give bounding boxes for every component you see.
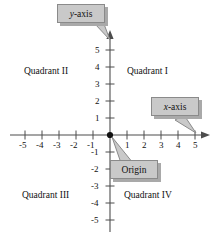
x-tick-label-1: 1: [125, 141, 130, 150]
quadrant-label-2: Quadrant II: [24, 67, 68, 77]
y-tick-label--5: -5: [91, 216, 99, 225]
coordinate-plane-figure: -5 -4 -3 -2 -1 1 2 3 4 5 5 4 3 2 1 -1 -2…: [0, 0, 216, 241]
y-tick-label-3: 3: [95, 80, 100, 89]
y-tick-label--4: -4: [91, 199, 99, 208]
quadrant-label-4: Quadrant IV: [124, 191, 172, 201]
y-axis-callout-rest: -axis: [74, 9, 92, 19]
x-tick-label-4: 4: [176, 141, 181, 150]
x-tick-label-2: 2: [142, 141, 147, 150]
y-tick-label-4: 4: [95, 63, 100, 72]
x-tick-label--4: -4: [36, 141, 44, 150]
y-tick-label--3: -3: [91, 182, 99, 191]
y-tick-label-2: 2: [95, 97, 100, 106]
y-axis-callout-label: y-axis: [70, 9, 93, 19]
x-axis-callout[interactable]: x-axis: [151, 97, 199, 116]
x-tick-label--2: -2: [70, 141, 78, 150]
origin-callout-label: Origin: [122, 165, 147, 175]
y-axis-callout-tail: [95, 24, 110, 40]
x-tick-label--3: -3: [53, 141, 61, 150]
y-axis-callout[interactable]: y-axis: [57, 4, 105, 23]
y-tick-label--1: -1: [91, 148, 99, 157]
x-tick-label--5: -5: [19, 141, 27, 150]
origin-callout[interactable]: Origin: [110, 160, 158, 179]
quadrant-label-3: Quadrant III: [22, 191, 69, 201]
quadrant-label-1: Quadrant I: [127, 67, 168, 77]
x-axis-callout-rest: -axis: [168, 102, 186, 112]
x-tick-label-3: 3: [159, 141, 164, 150]
x-tick-label-5: 5: [193, 141, 198, 150]
y-tick-label-5: 5: [95, 46, 100, 55]
x-axis-arrowhead: [201, 131, 210, 138]
y-tick-label--2: -2: [91, 165, 99, 174]
x-axis-callout-label: x-axis: [164, 102, 187, 112]
y-tick-label-1: 1: [95, 114, 100, 123]
axes-svg: [0, 0, 216, 241]
